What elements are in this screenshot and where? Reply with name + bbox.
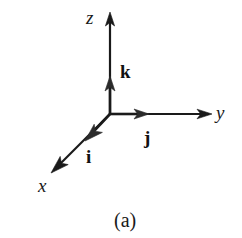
figure-caption: (a) — [114, 210, 136, 230]
coordinate-axes-figure: z y x k j i (a) — [0, 0, 242, 238]
i-vector-label: i — [86, 147, 91, 166]
y-axis-label: y — [216, 103, 224, 122]
i-vector-line — [94, 114, 110, 131]
j-unit-vector — [110, 109, 149, 119]
j-vector-label: j — [144, 128, 150, 147]
k-vector-label: k — [120, 62, 131, 81]
z-axis-label: z — [86, 8, 93, 27]
axes-drawing — [0, 0, 242, 238]
i-unit-vector — [85, 114, 110, 141]
k-unit-vector — [105, 76, 115, 114]
x-axis-label: x — [38, 176, 46, 195]
